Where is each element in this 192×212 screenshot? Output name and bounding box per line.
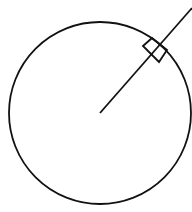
geometry-diagram <box>0 0 192 212</box>
